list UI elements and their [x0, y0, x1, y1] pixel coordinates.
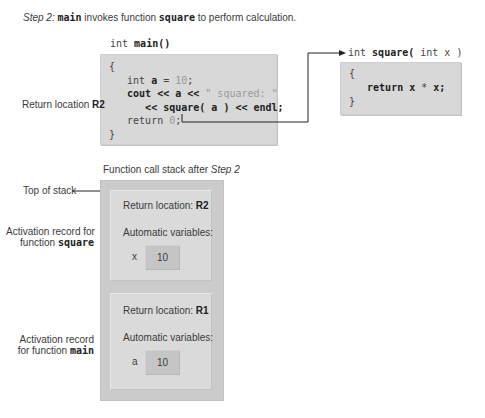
label-line: for function [18, 345, 70, 356]
automatic-variables-label: Automatic variables: [123, 332, 213, 343]
top-of-stack-label: Top of stack [23, 185, 76, 196]
function-code: square [58, 237, 94, 248]
return-location: Return location: R2 [123, 200, 209, 211]
return-value: R1 [196, 305, 209, 316]
activation-record-square-label: Activation record for function square [6, 226, 94, 248]
activation-record-main-label: Activation record for function main [6, 334, 94, 356]
stack-title: Function call stack after Step 2 [103, 164, 240, 175]
stack-title-text: Function call stack after [103, 164, 211, 175]
label-line: Activation record for [6, 226, 94, 237]
label-line: Activation record [6, 334, 94, 345]
stack-title-step: Step 2 [211, 164, 240, 175]
return-text: Return location: [123, 200, 196, 211]
return-value: R2 [196, 200, 209, 211]
activation-record-square: Return location: R2 Automatic variables:… [110, 190, 212, 281]
variable-value: 10 [157, 252, 168, 263]
function-code: main [70, 345, 94, 356]
activation-record-main: Return location: R1 Automatic variables:… [110, 293, 212, 390]
return-text: Return location: [123, 305, 196, 316]
variable-name: x [132, 251, 137, 262]
variable-value: 10 [157, 357, 168, 368]
automatic-variables-label: Automatic variables: [123, 227, 213, 238]
return-location: Return location: R1 [123, 305, 209, 316]
variable-value-box: 10 [145, 245, 180, 270]
label-line: function [20, 237, 58, 248]
variable-value-box: 10 [145, 350, 180, 375]
variable-name: a [132, 356, 138, 367]
